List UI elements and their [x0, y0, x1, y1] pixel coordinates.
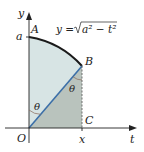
point-label-b: B	[84, 55, 93, 68]
angle-label-at-origin: θ	[34, 101, 40, 112]
point-label-a: A	[30, 23, 39, 36]
curve-equation-lhs: y =	[55, 23, 74, 35]
point-label-c: C	[85, 114, 94, 127]
x-axis-arrow-icon	[129, 125, 137, 131]
quarter-circle-sector-diagram: y A a y = a² − t² B θ θ C O x t	[0, 0, 144, 152]
curve-equation-radicand: a² − t²	[82, 23, 116, 35]
tick-label-x: x	[79, 133, 86, 146]
y-axis-label: y	[17, 7, 25, 20]
y-axis-arrow-icon	[26, 12, 32, 20]
angle-label-at-b: θ	[69, 83, 75, 94]
point-label-o: O	[17, 132, 26, 145]
tick-label-a: a	[16, 30, 23, 43]
x-axis-label: t	[130, 133, 135, 146]
